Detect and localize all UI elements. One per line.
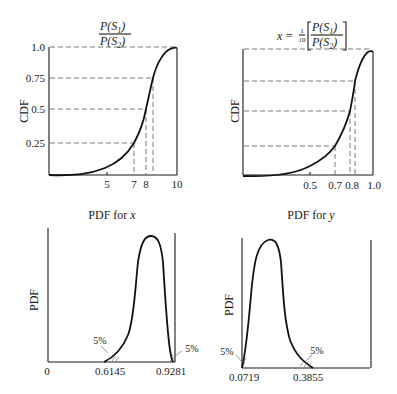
xtick-7: 7	[131, 178, 137, 190]
title-denominator: P(S2)	[99, 34, 125, 50]
right-tail-annotation: 5%	[310, 345, 323, 356]
cdf-ratio-chart: P(S1) P(S2) CDF 1.0 0.75 0.5 0.25 5 7 8 …	[17, 19, 183, 190]
chart-title: PDF for x	[88, 208, 136, 222]
xtick-1.0: 1.0	[367, 179, 381, 191]
y-axis-label: PDF	[222, 294, 236, 316]
chart-title: PDF for y	[287, 208, 335, 222]
ytick-1.0: 1.0	[31, 41, 45, 53]
xtick-0.3855: 0.3855	[293, 371, 324, 383]
left-tail-annotation: 5%	[220, 346, 233, 357]
title-numerator: P(S1)	[99, 19, 125, 35]
xtick-0.9281: 0.9281	[156, 365, 186, 377]
xtick-0.8: 0.8	[345, 179, 359, 191]
cdf-curve	[49, 48, 177, 176]
xtick-0.7: 0.7	[328, 179, 342, 191]
pdf-curve	[242, 240, 313, 368]
cdf-x-chart: x = 1 10 P(S1) P(S2) CDF 0.5 0.7 0.8 1.0	[228, 20, 381, 191]
xtick-0.6145: 0.6145	[95, 365, 126, 377]
ytick-0.75: 0.75	[26, 72, 46, 84]
xtick-10: 10	[172, 178, 184, 190]
pdf-curve	[104, 236, 173, 362]
title-ten: 10	[299, 36, 307, 44]
title-prefix: x =	[276, 29, 293, 43]
y-axis-label: CDF	[17, 99, 31, 123]
xtick-0.0719: 0.0719	[229, 371, 260, 383]
y-axis-label: CDF	[228, 99, 242, 123]
left-bracket	[308, 22, 311, 50]
title-one: 1	[300, 27, 304, 35]
y-axis-label: PDF	[27, 289, 41, 311]
right-bracket	[343, 22, 346, 50]
right-tail-annotation: 5%	[185, 343, 198, 354]
xtick-0: 0	[44, 365, 50, 377]
left-tail-annotation: 5%	[93, 335, 106, 346]
pdf-y-chart: PDF for y PDF 5% 5% 0.0719 0.3855	[220, 208, 371, 383]
xtick-5: 5	[104, 178, 110, 190]
ytick-0.25: 0.25	[26, 137, 46, 149]
ytick-0.5: 0.5	[31, 103, 45, 115]
xtick-0.5: 0.5	[303, 179, 317, 191]
xtick-8: 8	[143, 178, 149, 190]
pdf-x-chart: PDF for x PDF 5% 5% 0 0.6145 0.9281	[27, 208, 199, 377]
cdf-curve	[243, 51, 373, 176]
figure-canvas: P(S1) P(S2) CDF 1.0 0.75 0.5 0.25 5 7 8 …	[0, 0, 397, 394]
left-tail-leader	[101, 346, 108, 353]
title-numerator: P(S1)	[311, 20, 337, 36]
